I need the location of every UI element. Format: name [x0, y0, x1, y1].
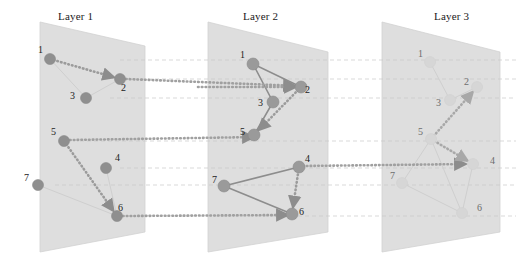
node-label-layer-1-2: 2: [121, 82, 126, 93]
node-layer-2-4[interactable]: [293, 161, 305, 173]
node-layer-1-7[interactable]: [33, 180, 44, 191]
multilayer-network-figure: Layer 1Layer 2Layer 3 123456712345671234…: [0, 0, 516, 269]
node-label-layer-3-6: 6: [477, 202, 482, 213]
node-layer-1-3[interactable]: [81, 93, 92, 104]
node-layer-3-7[interactable]: [397, 178, 408, 189]
title-layer-3: Layer 3: [434, 10, 469, 22]
node-label-layer-2-6: 6: [299, 206, 304, 217]
node-layer-2-6[interactable]: [286, 208, 298, 220]
node-label-layer-1-7: 7: [24, 172, 29, 183]
node-layer-2-5[interactable]: [248, 129, 260, 141]
node-layer-3-3[interactable]: [445, 95, 456, 106]
node-layer-3-1[interactable]: [425, 57, 436, 68]
node-layer-2-3[interactable]: [267, 96, 279, 108]
node-label-layer-3-2: 2: [464, 76, 469, 87]
plane-layer-1: [40, 22, 145, 252]
node-layer-1-1[interactable]: [45, 54, 56, 65]
node-layer-1-5[interactable]: [59, 136, 70, 147]
node-layer-3-4[interactable]: [468, 159, 479, 170]
title-layer-1: Layer 1: [58, 10, 93, 22]
node-label-layer-2-5: 5: [240, 126, 245, 137]
node-label-layer-1-1: 1: [38, 44, 43, 55]
node-label-layer-2-1: 1: [240, 49, 245, 60]
node-label-layer-3-1: 1: [418, 48, 423, 59]
node-label-layer-1-3: 3: [70, 90, 75, 101]
node-layer-3-2[interactable]: [472, 82, 483, 93]
node-layer-3-5[interactable]: [426, 134, 437, 145]
node-label-layer-2-7: 7: [212, 174, 217, 185]
node-label-layer-1-4: 4: [115, 152, 120, 163]
node-label-layer-3-5: 5: [418, 126, 423, 137]
network-canvas: [0, 0, 516, 269]
node-layer-1-4[interactable]: [101, 163, 112, 174]
node-label-layer-1-5: 5: [51, 126, 56, 137]
node-label-layer-3-3: 3: [436, 97, 441, 108]
node-layer-2-1[interactable]: [247, 58, 259, 70]
node-layer-3-6[interactable]: [457, 208, 468, 219]
plane-layer-3: [382, 22, 500, 252]
node-label-layer-3-4: 4: [490, 155, 495, 166]
title-layer-2: Layer 2: [243, 10, 278, 22]
node-label-layer-2-4: 4: [305, 153, 310, 164]
node-label-layer-2-3: 3: [258, 97, 263, 108]
node-label-layer-2-2: 2: [305, 84, 310, 95]
node-label-layer-1-6: 6: [118, 202, 123, 213]
node-layer-2-7[interactable]: [218, 180, 230, 192]
node-label-layer-3-7: 7: [390, 170, 395, 181]
